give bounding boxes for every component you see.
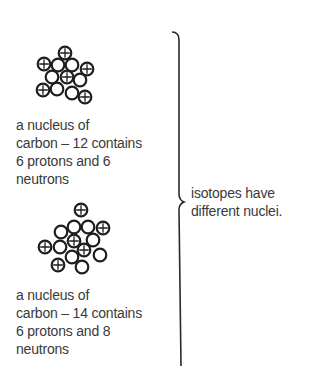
neutron-icon	[52, 59, 65, 72]
carbon-14-caption: a nucleus of carbon – 14 contains 6 prot…	[16, 286, 142, 358]
caption-line: 6 protons and 8	[16, 322, 142, 340]
neutron-icon	[54, 241, 67, 254]
caption-line: 6 protons and 6	[16, 152, 142, 170]
neutron-icon	[66, 59, 79, 72]
neutron-icon	[55, 226, 68, 239]
caption-line: carbon – 12 contains	[16, 134, 142, 152]
carbon-12-nucleus	[37, 47, 94, 104]
caption-line: neutrons	[16, 170, 142, 188]
carbon-14-nucleus	[39, 204, 110, 274]
neutron-icon	[76, 261, 89, 274]
caption-line: a nucleus of	[16, 286, 142, 304]
neutron-icon	[51, 83, 64, 96]
conclusion-line: isotopes have	[191, 184, 282, 202]
neutron-icon	[66, 251, 79, 264]
caption-line: neutrons	[16, 340, 142, 358]
isotope-conclusion: isotopes have different nuclei.	[191, 184, 282, 220]
neutron-icon	[66, 87, 79, 100]
carbon-12-caption: a nucleus of carbon – 12 contains 6 prot…	[16, 116, 142, 188]
caption-line: a nucleus of	[16, 116, 142, 134]
neutron-icon	[46, 71, 59, 84]
neutron-icon	[94, 249, 107, 262]
caption-line: carbon – 14 contains	[16, 304, 142, 322]
grouping-brace	[172, 32, 184, 366]
neutron-icon	[82, 221, 95, 234]
conclusion-line: different nuclei.	[191, 202, 282, 220]
neutron-icon	[68, 221, 81, 234]
